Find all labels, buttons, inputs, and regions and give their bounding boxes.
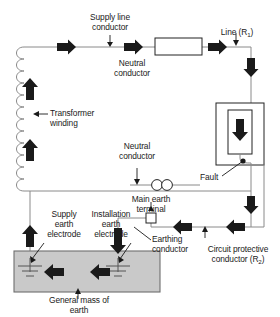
pointer-supply-line-conductor [107, 35, 113, 47]
arrow-winding-up-2 [22, 78, 38, 100]
label-cpc-subscript: 2 [258, 258, 261, 265]
load-rectangle [155, 38, 202, 55]
label-line-r1-subscript: 1 [247, 31, 250, 38]
label-neutral-conductor-mid: Neutral conductor [101, 141, 173, 161]
arrow-cpc-left-2 [173, 220, 192, 235]
main-earth-terminal-symbol [130, 180, 200, 191]
label-line-r1-text: Line (R [221, 27, 247, 37]
arrow-supply-line-1 [57, 40, 76, 55]
transformer-winding-coil [17, 47, 25, 191]
arrow-winding-up-1 [22, 139, 38, 161]
label-fault: Fault [200, 172, 240, 182]
label-line-r1-close: ) [250, 27, 253, 37]
arrow-cpc-down [244, 196, 259, 214]
arrow-supply-earth-up [22, 225, 38, 247]
label-circuit-protective-conductor: Circuit protective conductor (R2) [196, 234, 280, 266]
label-general-mass-of-earth: General mass of earth [33, 295, 125, 315]
arrow-line-down-1 [244, 58, 259, 77]
label-line-r1: Line (R1) [206, 17, 268, 38]
arrow-supply-line-3 [208, 40, 227, 55]
arrow-supply-line-2 [124, 40, 143, 55]
label-supply-line-conductor: Supply line conductor [72, 12, 148, 32]
label-installation-earth-electrode: Installation earth electrode [81, 209, 141, 240]
earthing-conductor-terminal [146, 213, 156, 223]
label-neutral-conductor-top: Neutral conductor [96, 58, 168, 78]
cpc-right-vertical-wire [251, 163, 264, 227]
earth-fault-loop-diagram: .wire { stroke:#8a8a8a; stroke-width:1; … [0, 0, 280, 317]
label-transformer-winding: Transformer winding [50, 108, 120, 128]
arrow-cpc-left-1 [226, 220, 245, 235]
label-cpc-close: ) [262, 254, 265, 264]
pointer-transformer-winding [33, 111, 48, 117]
pointer-neutral-conductor-mid [134, 168, 140, 185]
